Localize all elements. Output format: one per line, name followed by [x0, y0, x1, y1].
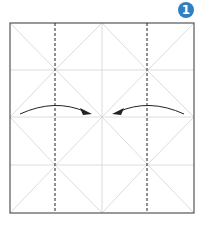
fold-arrow-right-icon [20, 105, 92, 115]
crease-lines [10, 23, 194, 213]
fold-arrow-left-icon [112, 105, 184, 115]
origami-diagram [0, 0, 199, 225]
